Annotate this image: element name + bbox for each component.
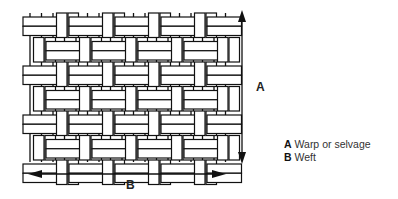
legend: A Warp or selvage B Weft [284, 138, 371, 164]
basket-weave-diagram [0, 0, 398, 199]
label-a: A [256, 80, 265, 94]
legend-item-weft: B Weft [284, 151, 371, 164]
label-b: B [126, 178, 135, 192]
legend-item-warp: A Warp or selvage [284, 138, 371, 151]
